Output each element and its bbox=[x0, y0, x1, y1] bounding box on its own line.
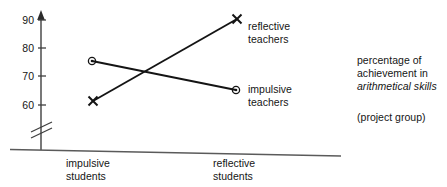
caption-line-3-emphasis: arithmetical skills bbox=[357, 80, 437, 93]
caption-line-4-project-group: (project group) bbox=[357, 111, 426, 124]
series-label-impulsive-teachers-line2: teachers bbox=[248, 96, 288, 109]
y-tick-label-80: 80 bbox=[12, 42, 34, 54]
caption-line-1: percentage of bbox=[357, 54, 421, 67]
x-category-label-reflective-students-line1: reflective bbox=[213, 157, 255, 170]
y-axis-arrow-icon bbox=[37, 10, 45, 20]
series-label-impulsive-teachers-line1: impulsive bbox=[248, 83, 292, 96]
chart-figure: 90 80 70 60 reflective teachers impulsiv… bbox=[0, 0, 447, 187]
x-axis bbox=[10, 150, 341, 157]
y-tick-label-70: 70 bbox=[12, 70, 34, 82]
y-tick-label-60: 60 bbox=[12, 99, 34, 111]
series-reflective-teachers bbox=[89, 15, 242, 106]
series-label-reflective-teachers-line1: reflective bbox=[248, 20, 290, 33]
x-category-label-impulsive-students-line1: impulsive bbox=[66, 157, 110, 170]
x-category-label-impulsive-students-line2: students bbox=[66, 170, 106, 183]
caption-line-2: achievement in bbox=[357, 67, 428, 80]
y-axis-ticks bbox=[38, 20, 46, 105]
series-impulsive-teachers bbox=[88, 57, 239, 93]
y-tick-label-90: 90 bbox=[12, 14, 34, 26]
x-category-label-reflective-students-line2: students bbox=[213, 170, 253, 183]
series-label-reflective-teachers-line2: teachers bbox=[248, 33, 288, 46]
